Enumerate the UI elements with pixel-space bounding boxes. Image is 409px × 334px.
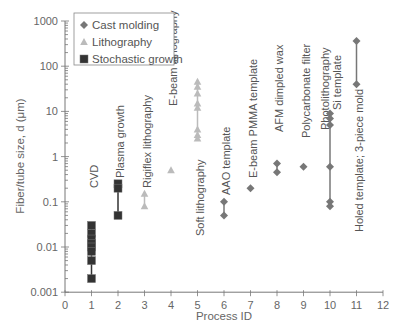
x-tick-label: 8 — [274, 299, 280, 311]
y-tick-label: 0.001 — [30, 286, 58, 298]
x-tick-label: 1 — [88, 299, 94, 311]
series-stochastic-growth — [88, 180, 123, 283]
data-point-group — [167, 166, 175, 173]
data-point-group — [300, 163, 308, 171]
y-tick-label: 1000 — [34, 15, 58, 27]
data-point-group — [326, 109, 334, 210]
annotation-label: Rigiflex lithography — [141, 95, 153, 188]
annotation-label: Si template — [331, 55, 343, 110]
legend-item-lithography: Lithography — [80, 36, 152, 48]
data-point-group — [220, 198, 228, 220]
annotation-label: AAO template — [220, 127, 232, 195]
y-tick-label: 10 — [46, 105, 58, 117]
annotation-label: AFM dimpled wax — [273, 44, 285, 132]
annotation-label: E-beam PMMA template — [247, 59, 259, 178]
y-axis-title: Fiber/tube size, d (μm) — [14, 98, 26, 213]
y-tick-label: 1 — [52, 151, 58, 163]
x-tick-label: 10 — [324, 299, 336, 311]
legend: Cast moldingLithographyStochastic growth — [74, 13, 183, 65]
data-point-group — [88, 221, 96, 282]
y-tick-label: 0.01 — [37, 241, 58, 253]
legend-item-stochastic-growth: Stochastic growth — [80, 53, 183, 65]
data-point-group — [114, 180, 122, 220]
annotation-label: Plasma growth — [114, 105, 126, 178]
x-tick-label: 3 — [141, 299, 147, 311]
y-tick-label: 100 — [40, 60, 58, 72]
x-tick-label: 2 — [115, 299, 121, 311]
annotation-label: Soft lithography — [194, 159, 206, 236]
data-point-group — [247, 184, 255, 192]
data-point-group — [353, 37, 361, 88]
annotation-label: Holed template; 3-piece mold — [353, 89, 365, 232]
legend-item-cast-molding: Cast molding — [80, 19, 159, 31]
x-tick-label: 12 — [377, 299, 389, 311]
x-tick-label: 4 — [168, 299, 174, 311]
legend-label: Lithography — [92, 36, 152, 48]
data-point-group — [194, 78, 202, 142]
legend-label: Stochastic growth — [92, 53, 183, 65]
annotation-label: CVD — [88, 165, 100, 188]
legend-label: Cast molding — [92, 19, 159, 31]
x-tick-label: 0 — [62, 299, 68, 311]
y-tick-label: 0.1 — [43, 196, 58, 208]
x-tick-label: 11 — [351, 299, 362, 311]
annotation-label: Polycarbonate filter — [300, 44, 312, 138]
x-tick-label: 9 — [300, 299, 306, 311]
x-axis-title: Process ID — [196, 310, 252, 322]
data-point-group — [141, 190, 149, 209]
process-fiber-size-chart: 0.0010.010.111010010000123456789101112 C… — [0, 0, 409, 334]
data-point-group — [273, 160, 281, 177]
